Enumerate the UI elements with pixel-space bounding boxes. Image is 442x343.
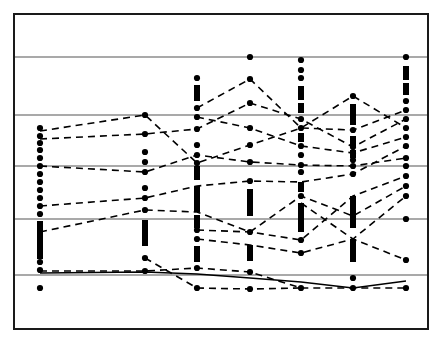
column-markers-7 <box>403 54 409 291</box>
marker-dot-3-5 <box>194 152 200 158</box>
marker-dot-4-7 <box>247 229 253 235</box>
marker-dot-5-8 <box>298 169 304 175</box>
column-markers-5 <box>298 57 304 291</box>
marker-dot-1-10 <box>37 203 43 209</box>
marker-bar-3-2 <box>194 186 200 212</box>
marker-dot-5-6 <box>298 152 304 158</box>
marker-dot-4-8 <box>247 269 253 275</box>
marker-dot-5-10 <box>298 237 304 243</box>
marker-dot-2-4 <box>142 169 148 175</box>
marker-dot-5-3 <box>298 116 304 122</box>
chart-figure <box>0 0 442 343</box>
marker-dot-1-14 <box>37 285 43 291</box>
marker-bar-7-0 <box>403 66 409 80</box>
marker-dot-7-13 <box>403 257 409 263</box>
marker-dot-5-5 <box>298 143 304 149</box>
column-markers-2 <box>142 112 148 274</box>
marker-dot-7-7 <box>403 155 409 161</box>
marker-dot-5-2 <box>298 75 304 81</box>
marker-dot-1-6 <box>37 171 43 177</box>
marker-dot-1-8 <box>37 187 43 193</box>
marker-dot-1-11 <box>37 211 43 217</box>
marker-bar-6-4 <box>350 239 356 262</box>
marker-dot-5-4 <box>298 125 304 131</box>
markers-group <box>37 54 409 292</box>
marker-dot-3-0 <box>194 75 200 81</box>
marker-bar-5-1 <box>298 103 304 113</box>
marker-dot-1-13 <box>37 267 43 273</box>
marker-dot-6-1 <box>350 127 356 133</box>
marker-bar-1-0 <box>37 221 43 259</box>
marker-dot-3-1 <box>194 105 200 111</box>
marker-dot-7-12 <box>403 216 409 222</box>
marker-dot-2-6 <box>142 195 148 201</box>
marker-dot-7-1 <box>403 98 409 104</box>
marker-dot-7-2 <box>403 107 409 113</box>
marker-dot-4-3 <box>247 125 253 131</box>
marker-dot-3-6 <box>194 160 200 166</box>
marker-dot-5-1 <box>298 67 304 73</box>
marker-dot-5-0 <box>298 57 304 63</box>
marker-dot-4-5 <box>247 159 253 165</box>
marker-dot-1-2 <box>37 140 43 146</box>
marker-bar-3-1 <box>194 166 200 180</box>
marker-dot-7-3 <box>403 116 409 122</box>
marker-dot-7-8 <box>403 163 409 169</box>
parallel-dot-plot <box>0 0 442 343</box>
marker-dot-7-5 <box>403 134 409 140</box>
marker-bar-4-0 <box>247 189 253 216</box>
marker-dot-1-3 <box>37 147 43 153</box>
marker-dot-4-2 <box>247 100 253 106</box>
marker-dot-1-0 <box>37 125 43 131</box>
marker-dot-2-7 <box>142 207 148 213</box>
marker-dot-3-4 <box>194 142 200 148</box>
marker-dot-2-0 <box>142 112 148 118</box>
marker-dot-7-0 <box>403 54 409 60</box>
marker-dot-6-4 <box>350 157 356 163</box>
marker-dot-6-3 <box>350 150 356 156</box>
marker-dot-7-6 <box>403 143 409 149</box>
marker-dot-6-9 <box>350 285 356 291</box>
marker-dot-2-3 <box>142 159 148 165</box>
marker-dot-4-6 <box>247 178 253 184</box>
marker-dot-3-10 <box>194 285 200 291</box>
marker-dot-6-8 <box>350 275 356 281</box>
marker-bar-5-2 <box>298 133 304 142</box>
marker-bar-6-0 <box>350 104 356 125</box>
marker-bar-3-0 <box>194 85 200 101</box>
marker-dot-1-4 <box>37 155 43 161</box>
marker-dot-7-10 <box>403 183 409 189</box>
marker-dot-7-11 <box>403 193 409 199</box>
marker-bar-6-3 <box>350 196 356 228</box>
marker-dot-6-6 <box>350 171 356 177</box>
marker-dot-7-14 <box>403 285 409 291</box>
marker-bar-3-3 <box>194 215 200 228</box>
plot-frame <box>14 14 428 329</box>
column-markers-3 <box>194 75 200 291</box>
marker-dot-4-1 <box>247 76 253 82</box>
marker-bar-5-0 <box>298 86 304 100</box>
marker-dot-1-12 <box>37 259 43 265</box>
marker-dot-2-8 <box>142 255 148 261</box>
marker-dot-3-2 <box>194 114 200 120</box>
marker-bar-5-4 <box>298 203 304 232</box>
marker-dot-2-1 <box>142 131 148 137</box>
marker-bar-3-4 <box>194 246 200 262</box>
marker-bar-2-0 <box>142 220 148 246</box>
marker-dot-1-5 <box>37 163 43 169</box>
marker-dot-6-0 <box>350 93 356 99</box>
marker-dot-5-12 <box>298 285 304 291</box>
marker-dot-3-8 <box>194 236 200 242</box>
marker-dot-7-4 <box>403 125 409 131</box>
marker-dot-5-7 <box>298 162 304 168</box>
marker-dot-2-2 <box>142 149 148 155</box>
marker-dot-4-4 <box>247 142 253 148</box>
marker-dot-1-7 <box>37 179 43 185</box>
marker-dot-6-5 <box>350 163 356 169</box>
marker-dot-4-9 <box>247 286 253 292</box>
marker-dot-6-2 <box>350 144 356 150</box>
marker-bar-5-3 <box>298 182 304 192</box>
marker-dot-7-9 <box>403 173 409 179</box>
marker-bar-7-1 <box>403 83 409 95</box>
frame-group <box>14 14 428 329</box>
